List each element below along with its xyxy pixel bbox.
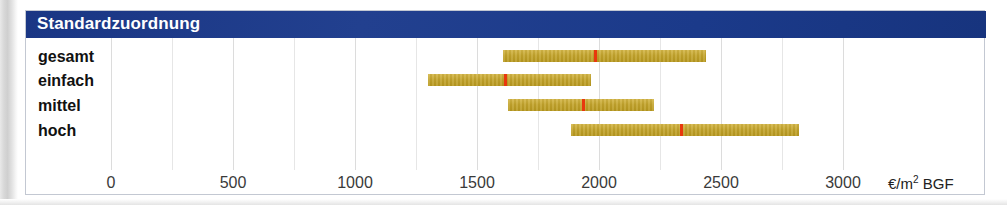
row-label-mittel: mittel [38, 97, 81, 115]
row-label-hoch: hoch [38, 122, 76, 140]
median-marker-mittel [582, 99, 585, 111]
axis-unit-suffix: BGF [919, 175, 954, 192]
xtick-2000: 2000 [581, 174, 617, 192]
range-chart: gesamt einfach mittel hoch 0 500 1000 15… [26, 38, 984, 194]
xtick-1500: 1500 [459, 174, 495, 192]
gridline-0 [111, 38, 112, 170]
range-bar-hoch [571, 124, 799, 136]
gridline-1250 [416, 38, 417, 170]
panel-title-bar: Standardzuordnung [26, 11, 986, 38]
gridline-3000 [843, 38, 844, 170]
gridline-2750 [782, 38, 783, 170]
gridline-1500 [477, 38, 478, 170]
median-marker-einfach [504, 74, 507, 86]
screenshot-root: Standardzuordnung gesamt einfach [0, 0, 1007, 205]
xtick-2500: 2500 [703, 174, 739, 192]
axis-unit-prefix: €/m [888, 175, 913, 192]
row-label-einfach: einfach [38, 72, 94, 90]
range-bar-einfach [428, 74, 591, 86]
gridline-500 [233, 38, 234, 170]
scan-edge-left [0, 0, 18, 205]
xtick-0: 0 [107, 174, 116, 192]
xtick-500: 500 [220, 174, 247, 192]
xtick-3000: 3000 [825, 174, 861, 192]
panel-title: Standardzuordnung [37, 14, 200, 34]
standardzuordnung-panel: Standardzuordnung gesamt einfach [25, 10, 985, 195]
gridline-250 [172, 38, 173, 170]
median-marker-hoch [680, 124, 683, 136]
gridline-750 [294, 38, 295, 170]
range-bar-mittel [508, 99, 654, 111]
scan-edge-bottom [0, 199, 1007, 205]
xtick-1000: 1000 [337, 174, 373, 192]
median-marker-gesamt [594, 50, 597, 62]
axis-unit-label: €/m2 BGF [888, 174, 954, 192]
gridline-1000 [355, 38, 356, 170]
range-bar-gesamt [503, 50, 706, 62]
gridline-2500 [721, 38, 722, 170]
row-label-gesamt: gesamt [38, 48, 94, 66]
